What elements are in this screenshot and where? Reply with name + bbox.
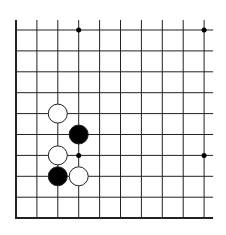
board-grid — [15, 20, 213, 218]
white-stone — [69, 167, 88, 186]
star-point-icon — [76, 28, 81, 33]
black-stone — [48, 167, 67, 186]
stones-layer — [48, 104, 88, 186]
star-point-icon — [76, 153, 81, 158]
star-point-icon — [202, 28, 207, 33]
white-stone — [48, 146, 67, 165]
star-point-icon — [202, 153, 207, 158]
white-stone — [48, 104, 67, 123]
go-board — [0, 0, 226, 235]
black-stone — [69, 125, 88, 144]
